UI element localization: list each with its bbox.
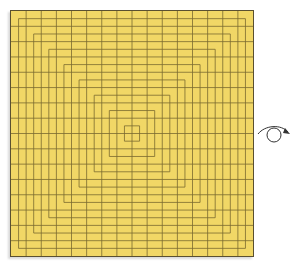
paper-sheet [10,10,254,257]
rotate-over-icon [255,122,293,146]
crease-grid [11,11,253,256]
